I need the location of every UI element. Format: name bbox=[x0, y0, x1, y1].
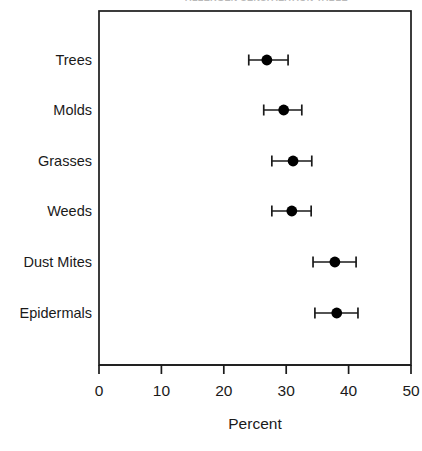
x-tick-label: 20 bbox=[204, 383, 244, 399]
x-tick-label: 50 bbox=[391, 383, 422, 399]
x-axis bbox=[99, 365, 411, 374]
error-bar-row bbox=[272, 156, 312, 167]
error-bar-row bbox=[264, 105, 302, 116]
mean-point-marker bbox=[331, 308, 342, 319]
error-bar-row bbox=[315, 308, 358, 319]
mean-point-marker bbox=[261, 55, 272, 66]
mean-point-marker bbox=[329, 257, 340, 268]
plot-frame-rect bbox=[99, 11, 411, 365]
x-tick-label: 30 bbox=[266, 383, 306, 399]
series-error-bars bbox=[249, 55, 358, 319]
error-bar-row bbox=[313, 257, 356, 268]
x-tick-label: 40 bbox=[329, 383, 369, 399]
mean-point-marker bbox=[288, 156, 299, 167]
x-tick-label: 0 bbox=[79, 383, 119, 399]
mean-point-marker bbox=[286, 206, 297, 217]
plot-frame bbox=[99, 11, 411, 365]
mean-point-marker bbox=[278, 105, 289, 116]
x-axis-title: Percent bbox=[99, 415, 411, 433]
x-tick-label: 10 bbox=[141, 383, 181, 399]
error-bar-row bbox=[249, 55, 288, 66]
error-bar-row bbox=[272, 206, 311, 217]
